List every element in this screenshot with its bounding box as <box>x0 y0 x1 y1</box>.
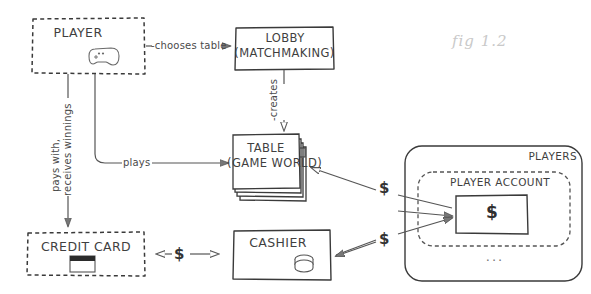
coins-icon <box>295 255 313 272</box>
balance-amount: $ <box>456 203 528 222</box>
edge-label-pays-line2: receives winnings <box>62 103 73 196</box>
lobby-label-line1: LOBBY <box>236 32 334 45</box>
edge-label-plays: plays <box>123 157 150 168</box>
edge-label-creates: -creates <box>268 79 279 121</box>
edge-label-dollar-account-cashier: $ <box>379 230 389 248</box>
edge-label-dollar-credit-cashier: $ <box>174 245 184 263</box>
diagram-canvas: PLAYER LOBBY (MATCHMAKING) TABLE (GAME W… <box>0 0 591 294</box>
gamepad-icon <box>89 48 119 65</box>
players-group-label: PLAYERS <box>487 151 577 163</box>
edge-label-dollar-account-table: $ <box>379 179 389 197</box>
cashier-label: CASHIER <box>238 236 318 250</box>
players-ellipsis: ... <box>455 250 535 265</box>
edge-label-pays-line1: pays with, <box>50 139 61 192</box>
edge-account-cashier <box>336 218 452 256</box>
table-label-line1: TABLE <box>233 142 299 155</box>
edge-label-chooses-table: -chooses table <box>151 40 227 51</box>
figure-caption: fig 1.2 <box>452 32 508 50</box>
player-label: PLAYER <box>33 26 123 40</box>
edge-player-plays-table <box>95 74 228 163</box>
lobby-label-line2: (MATCHMAKING) <box>232 47 337 60</box>
credit-card-label: CREDIT CARD <box>28 240 144 254</box>
player-account-label: PLAYER ACCOUNT <box>440 177 560 189</box>
credit-card-icon <box>70 256 95 272</box>
table-label-line2: (GAME WORLD) <box>227 157 305 170</box>
